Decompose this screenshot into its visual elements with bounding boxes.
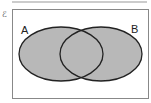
venn-diagram: ℰ A B: [0, 0, 151, 103]
set-b-label: B: [131, 23, 138, 35]
universal-set-symbol: ℰ: [2, 10, 7, 19]
set-a-label: A: [21, 24, 29, 36]
